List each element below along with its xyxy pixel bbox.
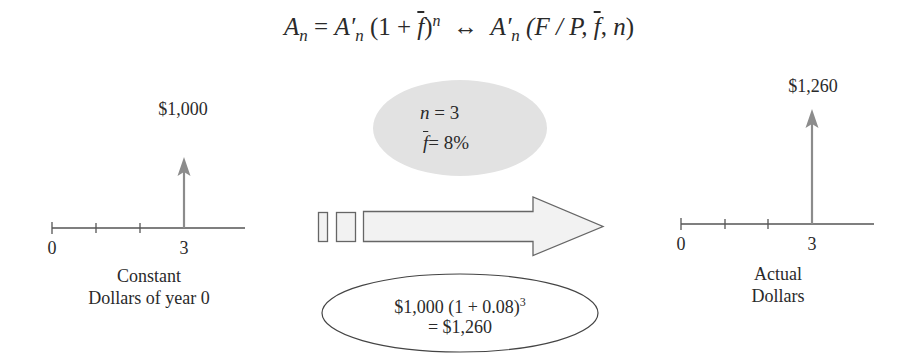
- conversion-arrow: [319, 197, 604, 256]
- formula-factor-open: (F / P,: [526, 13, 594, 40]
- formula-lhs-symbol: A: [284, 13, 299, 40]
- formula-equivalence-icon: ↔: [453, 13, 478, 40]
- formula-rhs-symbol: A′: [334, 13, 355, 40]
- formula-factor-symbol: A′: [491, 13, 512, 40]
- formula-factor-subscript: n: [511, 26, 520, 45]
- arrow-tail-block-medium: [337, 213, 356, 242]
- param-f: f= 8%: [420, 128, 469, 158]
- parameters-text: n = 3 f= 8%: [420, 98, 469, 158]
- param-n-label: n: [420, 102, 430, 123]
- calc-line1: $1,000 (1 + 0.08)3: [394, 292, 526, 317]
- left-cashflow-amount: $1,000: [158, 99, 208, 120]
- right-tick-label-3: 3: [808, 234, 817, 255]
- left-tick-label-3: 3: [180, 238, 189, 259]
- formula-equals: =: [314, 13, 328, 40]
- arrow-tail-block-small: [319, 213, 328, 242]
- right-caption-line1: Actual: [752, 263, 805, 285]
- big-right-arrow-icon: [364, 197, 604, 256]
- calculation-text: $1,000 (1 + 0.08)3 = $1,260: [394, 292, 526, 337]
- param-f-value: = 8%: [428, 132, 469, 153]
- formula-paren-open: (1 +: [370, 13, 417, 40]
- formula-factor-sep: ,: [601, 13, 614, 40]
- left-timeline-caption: Constant Dollars of year 0: [88, 265, 209, 309]
- calc-line1-exponent: 3: [520, 295, 526, 309]
- conversion-formula: An = A′n (1 + f)n ↔ A′n (F / P, f, n): [284, 12, 634, 46]
- left-tick-label-0: 0: [48, 238, 57, 259]
- left-timeline: [52, 157, 245, 234]
- param-n-value: = 3: [430, 102, 460, 123]
- formula-paren-close: ): [424, 13, 432, 40]
- right-tick-label-0: 0: [677, 234, 686, 255]
- right-timeline: [681, 109, 874, 230]
- formula-factor-f-bar: f: [594, 13, 601, 40]
- formula-lhs-subscript: n: [299, 26, 308, 45]
- formula-factor-n: n: [613, 13, 626, 40]
- right-cashflow-amount: $1,260: [788, 76, 838, 97]
- calc-line1-base: $1,000 (1 + 0.08): [394, 297, 520, 317]
- right-timeline-caption: Actual Dollars: [752, 263, 805, 307]
- formula-rhs-subscript: n: [355, 26, 364, 45]
- left-caption-line1: Constant: [88, 265, 209, 287]
- param-n: n = 3: [420, 98, 469, 128]
- formula-exponent: n: [433, 12, 441, 29]
- right-caption-line2: Dollars: [752, 285, 805, 307]
- formula-factor-close: ): [626, 13, 634, 40]
- left-caption-line2: Dollars of year 0: [88, 287, 209, 309]
- calc-line2: = $1,260: [394, 317, 526, 337]
